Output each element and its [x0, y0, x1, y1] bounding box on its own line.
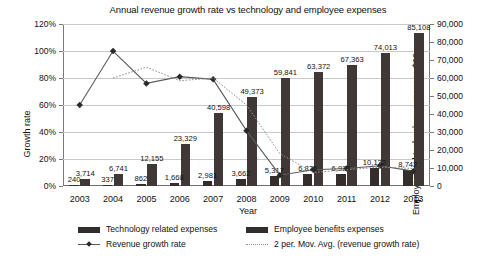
- y-tick-label-right: 30,000: [437, 127, 463, 137]
- legend-swatch-icon: [246, 227, 268, 233]
- y-tick-label-right: 10,000: [437, 163, 463, 173]
- y-axis-left-title: Growth rate: [22, 110, 32, 157]
- x-tick-label: 2003: [70, 194, 90, 204]
- line-marker: [76, 102, 83, 109]
- legend-line-marker-icon: [78, 241, 100, 248]
- y-tick-label-left: 60%: [39, 100, 56, 110]
- legend-label: Revenue growth rate: [106, 239, 186, 249]
- y-tick-label-right: 70,000: [437, 55, 463, 65]
- line-series-group: [63, 24, 430, 186]
- plot-area: 0%20%40%60%80%100%120% 010,00020,00030,0…: [63, 24, 430, 186]
- y-tick-right: [430, 60, 434, 61]
- y-tick-right: [430, 96, 434, 97]
- x-tick-label: 2010: [303, 194, 323, 204]
- legend-dotted-line-icon: [246, 241, 268, 248]
- y-tick-right: [430, 150, 434, 151]
- y-tick-label-right: 0: [437, 181, 442, 191]
- line-marker: [410, 168, 417, 175]
- line-marker: [177, 73, 184, 80]
- y-tick-label-right: 20,000: [437, 145, 463, 155]
- y-tick-label-left: 120%: [34, 19, 56, 29]
- y-tick-left: [59, 186, 63, 187]
- y-tick-label-left: 100%: [34, 46, 56, 56]
- legend-item-revenue-growth: Revenue growth rate: [78, 239, 186, 249]
- y-tick-right: [430, 168, 434, 169]
- y-tick-label-right: 60,000: [437, 73, 463, 83]
- y-tick-label-left: 80%: [39, 73, 56, 83]
- x-tick-label: 2008: [236, 194, 256, 204]
- y-tick-right: [430, 114, 434, 115]
- chart-container: Annual revenue growth rate vs technology…: [0, 0, 496, 267]
- legend-swatch-icon: [78, 227, 100, 233]
- x-tick-label: 2006: [170, 194, 190, 204]
- y-tick-label-right: 40,000: [437, 109, 463, 119]
- legend-item-moving-average: 2 per. Mov. Avg. (revenue growth rate): [246, 239, 419, 249]
- x-tick-label: 2004: [103, 194, 123, 204]
- x-tick-label: 2005: [136, 194, 156, 204]
- y-tick-right: [430, 132, 434, 133]
- y-tick-label-left: 20%: [39, 154, 56, 164]
- line-marker: [377, 162, 384, 169]
- y-tick-label-right: 90,000: [437, 19, 463, 29]
- y-tick-label-right: 50,000: [437, 91, 463, 101]
- legend-label: 2 per. Mov. Avg. (revenue growth rate): [274, 239, 419, 249]
- legend-label: Employee benefits expenses: [274, 224, 384, 234]
- legend-label: Technology related expenses: [106, 224, 217, 234]
- line-path: [80, 51, 414, 175]
- y-tick-right: [430, 42, 434, 43]
- x-tick-label: 2012: [370, 194, 390, 204]
- y-tick-right: [430, 186, 434, 187]
- x-axis-title: Year: [0, 206, 496, 216]
- line-marker: [343, 165, 350, 172]
- legend-item-technology: Technology related expenses: [78, 224, 217, 234]
- x-tick-label: 2011: [337, 194, 356, 204]
- x-tick-label: 2013: [403, 194, 423, 204]
- y-tick-label-right: 80,000: [437, 37, 463, 47]
- y-tick-right: [430, 24, 434, 25]
- legend-item-employee: Employee benefits expenses: [246, 224, 384, 234]
- y-tick-label-left: 40%: [39, 127, 56, 137]
- x-tick-label: 2009: [270, 194, 290, 204]
- x-tick-label: 2007: [203, 194, 223, 204]
- line-path: [113, 67, 413, 172]
- y-tick-right: [430, 78, 434, 79]
- chart-title: Annual revenue growth rate vs technology…: [0, 4, 496, 15]
- y-tick-label-left: 0%: [44, 181, 56, 191]
